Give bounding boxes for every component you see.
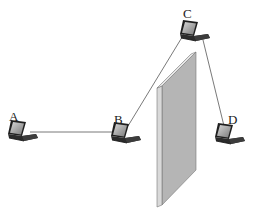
network-diagram: A B C D — [0, 0, 253, 216]
link-c-d — [203, 40, 224, 126]
laptop-icon — [180, 20, 210, 41]
node-label-d: D — [228, 113, 237, 126]
diagram-graphics — [0, 0, 253, 216]
wall-obstacle — [157, 52, 196, 207]
node-label-b: B — [114, 113, 123, 126]
node-label-c: C — [183, 7, 192, 20]
node-label-a: A — [9, 110, 18, 123]
